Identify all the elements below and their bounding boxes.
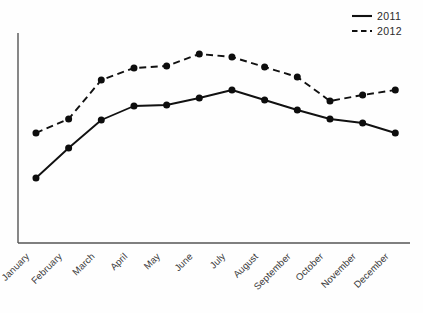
data-point-marker (163, 102, 170, 109)
chart-canvas: JanuaryFebruaryMarchAprilMayJuneJulyAugu… (0, 0, 423, 313)
data-point-marker (130, 65, 137, 72)
legend-label-2012: 2012 (377, 25, 402, 37)
data-point-marker (294, 74, 301, 81)
data-point-marker (228, 54, 235, 61)
data-point-marker (359, 120, 366, 127)
data-point-marker (65, 116, 72, 123)
data-point-marker (392, 130, 399, 137)
data-point-marker (130, 103, 137, 110)
data-point-marker (98, 117, 105, 124)
legend-label-2011: 2011 (377, 10, 401, 22)
data-point-marker (98, 77, 105, 84)
data-point-marker (294, 107, 301, 114)
data-point-marker (163, 63, 170, 70)
data-point-marker (32, 130, 39, 137)
data-point-marker (32, 175, 39, 182)
data-point-marker (196, 95, 203, 102)
data-point-marker (228, 87, 235, 94)
data-point-marker (196, 51, 203, 58)
data-point-marker (261, 64, 268, 71)
data-point-marker (359, 92, 366, 99)
data-point-marker (65, 145, 72, 152)
data-point-marker (392, 87, 399, 94)
data-point-marker (326, 116, 333, 123)
data-point-marker (261, 97, 268, 104)
line-chart-figure: JanuaryFebruaryMarchAprilMayJuneJulyAugu… (0, 0, 423, 313)
data-point-marker (326, 98, 333, 105)
